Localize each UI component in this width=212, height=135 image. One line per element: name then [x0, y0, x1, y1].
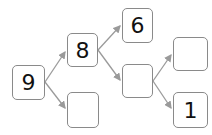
node-value: 9 — [22, 70, 36, 95]
arrow-8-to-6 — [98, 26, 120, 50]
node-blank-middle[interactable] — [122, 64, 153, 98]
node-blank-bottom[interactable] — [67, 92, 99, 128]
node-root-9: 9 — [12, 65, 45, 100]
arrow-blank-to-blank — [153, 55, 171, 81]
arrow-8-to-blank — [98, 50, 120, 80]
node-8: 8 — [67, 33, 98, 67]
node-value: 8 — [76, 38, 90, 63]
node-1: 1 — [173, 92, 208, 128]
arrow-9-to-8 — [45, 52, 65, 82]
node-blank-top-right[interactable] — [173, 37, 208, 71]
arrow-blank-to-1 — [153, 81, 171, 108]
node-6: 6 — [122, 8, 153, 43]
arrow-9-to-blank — [45, 82, 65, 108]
node-value: 1 — [184, 98, 198, 123]
node-value: 6 — [131, 13, 145, 38]
